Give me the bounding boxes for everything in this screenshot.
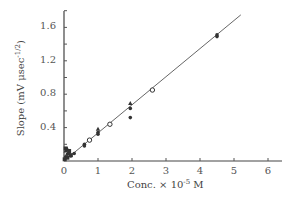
x-tick-label: 5: [228, 165, 240, 176]
y-tick-label: 0.8: [26, 87, 56, 98]
x-tick-label: 4: [194, 165, 206, 176]
y-tick-label: 1.6: [26, 20, 56, 31]
filled-circle-point: [129, 107, 133, 111]
square-point: [67, 149, 71, 153]
x-tick-label: 1: [92, 165, 104, 176]
x-tick-label: 0: [58, 165, 70, 176]
y-tick-label: 1.2: [26, 54, 56, 65]
triangle-point: [128, 101, 132, 105]
x-axis-label: Conc. × 10-5 M: [127, 178, 204, 190]
x-tick-label: 6: [262, 165, 274, 176]
axes: [64, 11, 282, 161]
filled-circle-point: [215, 35, 219, 39]
y-tick-label: 0.4: [26, 121, 56, 132]
triangle-point: [96, 127, 100, 131]
open-circle-point: [87, 138, 91, 142]
x-tick-label: 2: [126, 165, 138, 176]
x-tick-label: 3: [160, 165, 172, 176]
filled-circle-point: [129, 116, 133, 120]
open-circle-point: [150, 88, 154, 92]
open-circle-point: [108, 122, 112, 126]
filled-circle-point: [72, 152, 76, 156]
y-axis-label: Slope (mV μsec-1/2): [14, 23, 26, 153]
square-point: [69, 153, 73, 157]
filled-circle-point: [83, 144, 87, 148]
filled-circle-point: [96, 132, 100, 136]
